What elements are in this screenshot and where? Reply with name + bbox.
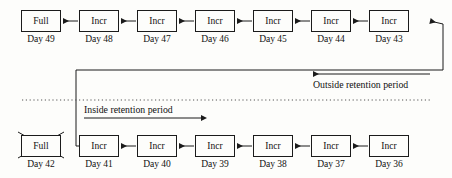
- backup-node[interactable]: Incr: [195, 10, 235, 32]
- backup-node-day-label: Day 39: [191, 159, 239, 169]
- backup-node-day-label: Day 49: [17, 34, 65, 44]
- backup-node-day-label: Day 47: [133, 34, 181, 44]
- backup-node-day-label: Day 36: [365, 159, 413, 169]
- backup-node[interactable]: Incr: [369, 135, 409, 157]
- inside-retention-period-label: Inside retention period: [84, 104, 173, 115]
- backup-node-day-label: Day 42: [17, 159, 65, 169]
- backup-node[interactable]: Incr: [253, 10, 293, 32]
- backup-node[interactable]: Incr: [311, 135, 351, 157]
- backup-node[interactable]: Full: [21, 10, 61, 32]
- backup-node-day-label: Day 48: [75, 34, 123, 44]
- outside-retention-period-label: Outside retention period: [313, 79, 408, 90]
- backup-node[interactable]: Incr: [195, 135, 235, 157]
- backup-node-day-label: Day 44: [307, 34, 355, 44]
- backup-node[interactable]: Incr: [369, 10, 409, 32]
- backup-node-expired[interactable]: Full: [21, 135, 61, 157]
- backup-node-day-label: Day 45: [249, 34, 297, 44]
- backup-node-day-label: Day 41: [75, 159, 123, 169]
- backup-node[interactable]: Incr: [137, 10, 177, 32]
- backup-node-day-label: Day 37: [307, 159, 355, 169]
- backup-node-day-label: Day 43: [365, 34, 413, 44]
- backup-node[interactable]: Incr: [253, 135, 293, 157]
- backup-node[interactable]: Incr: [311, 10, 351, 32]
- backup-node[interactable]: Incr: [79, 10, 119, 32]
- backup-node[interactable]: Incr: [137, 135, 177, 157]
- backup-node-day-label: Day 40: [133, 159, 181, 169]
- backup-node-day-label: Day 46: [191, 34, 239, 44]
- backup-node[interactable]: Incr: [79, 135, 119, 157]
- backup-retention-diagram: Full Day 49 Incr Day 48 Incr Day 47 Incr…: [0, 0, 452, 178]
- backup-node-day-label: Day 38: [249, 159, 297, 169]
